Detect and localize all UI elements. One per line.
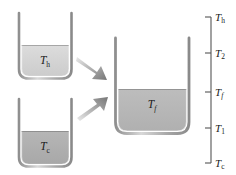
scale-label-tc-sub: c (221, 162, 225, 171)
scale-label-t1: T1 (215, 122, 225, 137)
cold-water-beaker (19, 99, 72, 167)
hot-water-beaker (19, 13, 72, 79)
mixture-beaker (116, 38, 190, 134)
cold-pour-arrow (77, 97, 108, 121)
hot-pour-arrow (76, 57, 107, 80)
thermal-mixing-figure: Th Tc Tf (0, 0, 236, 175)
scale-label-t2: T2 (215, 47, 225, 62)
scale-label-t1-sub: 1 (221, 127, 225, 136)
scale-label-tc: Tc (215, 157, 225, 172)
hot-label-sub: h (46, 60, 50, 69)
figure-canvas: Th Tc Tf (0, 0, 236, 175)
temperature-scale: Th T2 Tf T1 Tc (205, 11, 225, 172)
scale-label-tf: Tf (215, 86, 224, 101)
scale-label-th-sub: h (221, 16, 225, 25)
scale-label-th: Th (215, 11, 225, 26)
scale-label-t2-sub: 2 (221, 52, 225, 61)
scale-label-tf-sub: f (221, 91, 224, 100)
mixture-liquid (118, 89, 187, 131)
